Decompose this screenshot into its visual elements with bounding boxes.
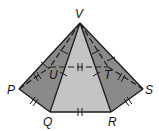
label-r: R	[108, 115, 117, 129]
pyramid-diagram: V P Q R S U T	[0, 0, 159, 131]
label-v: V	[75, 7, 84, 21]
label-p: P	[7, 83, 15, 97]
pyramid-svg: V P Q R S U T	[0, 0, 159, 131]
label-s: S	[145, 83, 153, 97]
label-u: U	[49, 68, 58, 82]
label-q: Q	[43, 115, 52, 129]
